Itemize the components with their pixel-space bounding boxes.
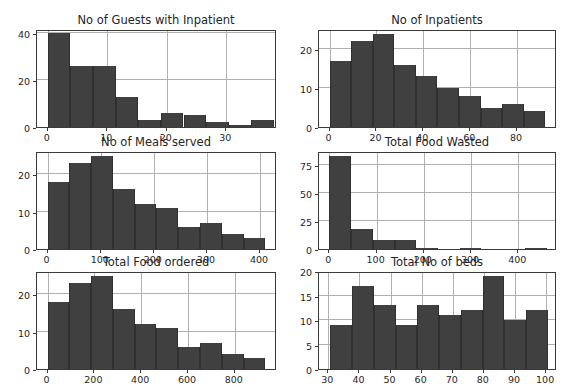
x-tick-mark xyxy=(376,250,377,253)
histogram-bar xyxy=(244,358,266,369)
gridline-horizontal xyxy=(319,344,555,345)
x-tick-label: 60 xyxy=(415,374,427,385)
subplot-title: Total Food ordered xyxy=(36,256,276,269)
gridline-horizontal xyxy=(37,293,275,294)
x-tick-label: 400 xyxy=(508,254,526,265)
histogram-bar xyxy=(373,34,395,127)
histogram-bar xyxy=(113,189,135,249)
histogram-bar xyxy=(525,248,547,249)
x-tick-label: 400 xyxy=(250,254,268,265)
gridline-vertical xyxy=(515,273,516,369)
histogram-bar xyxy=(184,115,207,127)
x-tick-label: 40 xyxy=(416,132,428,143)
histogram-bar xyxy=(437,88,459,127)
x-tick-label: 80 xyxy=(477,374,489,385)
y-tick-label: 75 xyxy=(284,160,312,171)
histogram-bar xyxy=(481,108,503,127)
x-tick-mark xyxy=(358,370,359,373)
y-tick-label: 10 xyxy=(284,84,312,95)
histogram-bar xyxy=(48,33,71,127)
histogram-bar xyxy=(178,227,200,249)
x-tick-mark xyxy=(206,250,207,253)
histogram-bar xyxy=(113,309,135,369)
subplot-title: Total No of beds xyxy=(318,256,556,269)
x-tick-label: 20 xyxy=(369,132,381,143)
y-tick-mark xyxy=(33,295,36,296)
histogram-bar xyxy=(351,229,373,249)
histogram-bar xyxy=(229,125,252,127)
y-tick-label: 10 xyxy=(2,327,30,338)
x-tick-mark xyxy=(452,370,453,373)
x-tick-mark xyxy=(329,128,330,131)
histogram-bar xyxy=(459,96,481,127)
y-tick-label: 0 xyxy=(2,245,30,256)
plot-area xyxy=(318,152,556,250)
x-tick-label: 70 xyxy=(446,374,458,385)
x-tick-label: 0 xyxy=(44,254,50,265)
y-tick-label: 5 xyxy=(284,340,312,351)
y-tick-mark xyxy=(315,370,318,371)
histogram-bar xyxy=(91,276,113,370)
histogram-bar xyxy=(351,41,373,127)
y-tick-mark xyxy=(315,222,318,223)
y-tick-mark xyxy=(33,128,36,129)
histogram-bar xyxy=(69,283,91,369)
histogram-bar xyxy=(135,204,157,249)
histogram-bar xyxy=(526,310,548,369)
histogram-bar xyxy=(48,182,70,249)
histogram-bar xyxy=(504,320,526,369)
plot-area xyxy=(318,272,556,370)
x-tick-label: 10 xyxy=(100,132,112,143)
x-tick-label: 20 xyxy=(160,132,172,143)
x-tick-label: 0 xyxy=(325,254,331,265)
gridline-vertical xyxy=(260,153,261,249)
gridline-vertical xyxy=(377,153,378,249)
gridline-horizontal xyxy=(319,87,555,88)
x-tick-mark xyxy=(390,370,391,373)
histogram-bar xyxy=(135,324,157,369)
gridline-horizontal xyxy=(37,32,275,33)
histogram-bar xyxy=(329,156,351,249)
gridline-vertical xyxy=(141,273,142,369)
x-tick-label: 100 xyxy=(536,374,554,385)
x-tick-label: 100 xyxy=(91,254,109,265)
gridline-vertical xyxy=(48,31,49,127)
x-tick-label: 800 xyxy=(225,374,243,385)
x-tick-label: 50 xyxy=(384,374,396,385)
histogram-bar xyxy=(251,120,274,127)
gridline-vertical xyxy=(376,31,377,127)
x-tick-mark xyxy=(470,250,471,253)
x-tick-mark xyxy=(93,370,94,373)
gridline-vertical xyxy=(546,273,547,369)
x-tick-mark xyxy=(166,128,167,131)
gridline-vertical xyxy=(422,273,423,369)
histogram-bar xyxy=(417,305,439,369)
histogram-bar xyxy=(396,325,418,369)
gridline-vertical xyxy=(188,273,189,369)
histogram-bar xyxy=(330,61,352,127)
gridline-horizontal xyxy=(319,220,555,221)
y-tick-label: 25 xyxy=(284,216,312,227)
y-tick-label: 50 xyxy=(284,188,312,199)
subplot-1: No of Guests with Inpatient010203002040 xyxy=(0,0,563,391)
histogram-bar xyxy=(395,240,417,249)
x-tick-mark xyxy=(422,128,423,131)
histogram-bar xyxy=(200,223,222,249)
gridline-horizontal xyxy=(37,173,275,174)
histogram-bar xyxy=(161,113,184,127)
gridline-vertical xyxy=(470,31,471,127)
y-tick-label: 0 xyxy=(2,123,30,134)
y-tick-label: 0 xyxy=(284,123,312,134)
y-tick-mark xyxy=(315,321,318,322)
histogram-bar xyxy=(156,328,178,369)
y-tick-mark xyxy=(33,34,36,35)
gridline-vertical xyxy=(48,153,49,249)
x-tick-mark xyxy=(106,128,107,131)
plot-area xyxy=(36,30,276,128)
gridline-vertical xyxy=(235,273,236,369)
gridline-horizontal xyxy=(319,319,555,320)
y-tick-mark xyxy=(315,272,318,273)
x-tick-mark xyxy=(514,370,515,373)
gridline-vertical xyxy=(359,273,360,369)
x-tick-mark xyxy=(375,128,376,131)
